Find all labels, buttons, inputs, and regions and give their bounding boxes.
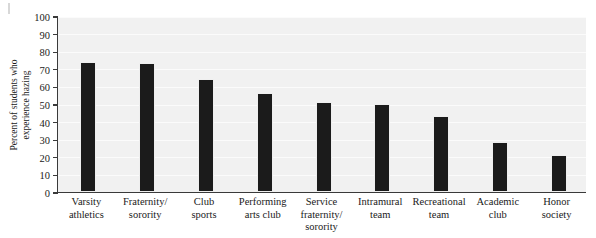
gridline (58, 87, 586, 88)
x-axis-label: Servicefraternity/sorority (292, 196, 351, 234)
bar (316, 102, 332, 192)
x-axis-label-line: sorority (292, 221, 351, 234)
x-axis-label-line: Academic (468, 196, 527, 209)
x-axis-label: Clubsports (175, 196, 234, 221)
y-tick-mark (53, 69, 58, 70)
y-tick-label: 10 (40, 170, 51, 181)
y-tick-mark (53, 104, 58, 105)
y-axis-label-line-1: Percent of students who (9, 59, 21, 150)
x-axis-label-line: Fraternity/ (116, 196, 175, 209)
y-tick-mark (53, 175, 58, 176)
x-axis-label: Recreationalteam (410, 196, 469, 221)
y-tick-label: 30 (40, 135, 51, 146)
x-axis-label-line: Intramural (351, 196, 410, 209)
x-axis-label-line: society (527, 209, 586, 222)
x-axis-label-line: fraternity/ (292, 209, 351, 222)
x-axis-label: Academicclub (468, 196, 527, 221)
y-axis-label: Percent of students who experience hazin… (5, 16, 35, 194)
x-axis-label: Intramuralteam (351, 196, 410, 221)
x-axis-label-line: Honor (527, 196, 586, 209)
page-artifact-mark (8, 3, 10, 14)
gridline (58, 52, 586, 53)
y-tick-label: 70 (40, 64, 51, 75)
y-tick-mark (53, 87, 58, 88)
bar-chart-figure: Percent of students who experience hazin… (0, 0, 596, 238)
y-tick-mark (53, 157, 58, 158)
x-axis-label: Fraternity/sorority (116, 196, 175, 221)
y-tick-label: 80 (40, 47, 51, 58)
bar (257, 93, 273, 192)
x-axis-label-line: arts club (233, 209, 292, 222)
x-axis-label-line: sorority (116, 209, 175, 222)
y-tick-label: 0 (45, 188, 50, 199)
bar (374, 104, 390, 192)
plot-inner: 1009080706050403020100 (58, 17, 586, 192)
y-tick-mark (53, 192, 58, 193)
y-tick-label: 40 (40, 117, 51, 128)
bar (80, 62, 96, 192)
gridline (58, 69, 586, 70)
x-axis-label-line: Service (292, 196, 351, 209)
x-axis-label: Performingarts club (233, 196, 292, 221)
y-tick-mark (53, 122, 58, 123)
x-axis-label-line: team (351, 209, 410, 222)
plot-area: 1009080706050403020100 (57, 17, 586, 193)
y-tick-mark (53, 34, 58, 35)
bar (139, 63, 155, 192)
y-tick-label: 90 (40, 29, 51, 40)
bar (492, 142, 508, 192)
bar (198, 79, 214, 192)
x-axis-label: Varsityathletics (57, 196, 116, 221)
x-axis-label-line: Club (175, 196, 234, 209)
x-axis-label-line: team (410, 209, 469, 222)
y-tick-label: 20 (40, 152, 51, 163)
gridline (58, 17, 586, 18)
y-tick-mark (53, 16, 58, 17)
x-axis-label-line: club (468, 209, 527, 222)
gridline (58, 34, 586, 35)
x-axis-category-labels: VarsityathleticsFraternity/sororityClubs… (57, 196, 586, 238)
x-axis-label-line: Varsity (57, 196, 116, 209)
x-axis-label-line: Performing (233, 196, 292, 209)
y-tick-mark (53, 52, 58, 53)
y-tick-label: 50 (40, 100, 51, 111)
x-axis-label-line: Recreational (410, 196, 469, 209)
bar (433, 116, 449, 192)
y-tick-mark (53, 140, 58, 141)
x-axis-label-line: athletics (57, 209, 116, 222)
bar (551, 155, 567, 192)
y-tick-label: 60 (40, 82, 51, 93)
y-axis-label-line-2: experience hazing (20, 59, 32, 150)
x-axis-label: Honorsociety (527, 196, 586, 221)
x-axis-label-line: sports (175, 209, 234, 222)
y-tick-label: 100 (34, 12, 50, 23)
